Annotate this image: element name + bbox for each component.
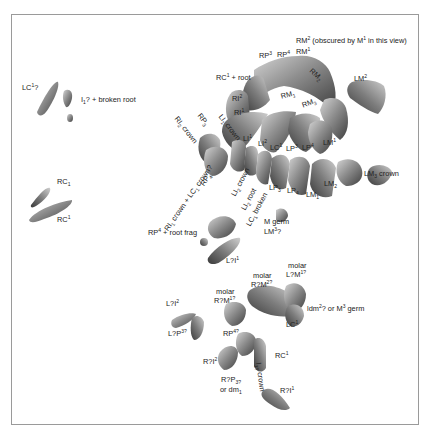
- label-ri1: RI1: [234, 109, 244, 117]
- label-lqp3: L?P3?: [168, 330, 187, 338]
- label-rm1-upper: RM1: [296, 48, 310, 56]
- label-lc1-b: LC1: [286, 321, 298, 329]
- label-lp3-lower: LP3: [269, 184, 281, 192]
- label-lm1-lower: LM1: [306, 191, 319, 199]
- label-idm2-m3germ: ldm2? or M3 germ: [307, 305, 364, 313]
- label-lp3: LP3: [286, 145, 298, 153]
- label-lp4: LP4: [302, 144, 314, 152]
- label-rp4q: RP4?: [223, 330, 239, 338]
- label-lqi1: L?I1: [226, 257, 239, 265]
- label-molar-rqm1-b: R?M1?: [214, 297, 235, 305]
- label-rp4: RP4: [277, 51, 290, 59]
- label-rqp3-a: R?P3?: [221, 376, 241, 384]
- label-ri2: RI2: [232, 95, 242, 103]
- label-lm1-upper: LM1: [323, 139, 336, 147]
- label-lm3q: LM3?: [264, 228, 281, 236]
- label-lc1q: LC1?: [22, 84, 38, 92]
- label-lp4-lower: LP4: [287, 187, 299, 195]
- label-lqi2: L?I2: [166, 300, 179, 308]
- label-lm3-crown: LM3 crown: [364, 170, 399, 178]
- label-rqi1: R?I1: [280, 387, 294, 395]
- label-rc1-b: RC1: [275, 352, 288, 360]
- label-lm2-upper: LM2: [354, 75, 367, 83]
- label-m-germ: M germ: [264, 218, 289, 226]
- label-rqp3-b: or dm1: [220, 386, 242, 394]
- label-rm2-obscured: RM2 (obscured by M1 in this view): [296, 37, 407, 45]
- label-lc1: LC1: [270, 144, 282, 152]
- label-rc1-upper: RC1: [57, 216, 70, 224]
- label-molar-lqm1-b: L?M1?: [286, 271, 306, 279]
- label-molar-rqm2-b: R?M2?: [251, 281, 272, 289]
- label-rc1-root: RC1 + root: [216, 74, 251, 82]
- label-rc1-lower: RC1: [57, 178, 70, 186]
- label-li1: LI1: [243, 135, 252, 143]
- label-li2: LI2: [258, 140, 267, 148]
- label-rp4-root-frag: RP4 + root frag: [148, 229, 197, 237]
- label-rp3: RP3: [259, 52, 272, 60]
- label-lm2-lower: LM2: [324, 180, 337, 188]
- label-i1-broken-root: I1? + broken root: [81, 96, 136, 104]
- tooth-i1: [63, 90, 73, 122]
- label-rqi2: R?I2: [203, 358, 217, 366]
- tooth-rc1-lower: [31, 188, 51, 208]
- tooth-lc1q: [37, 82, 58, 116]
